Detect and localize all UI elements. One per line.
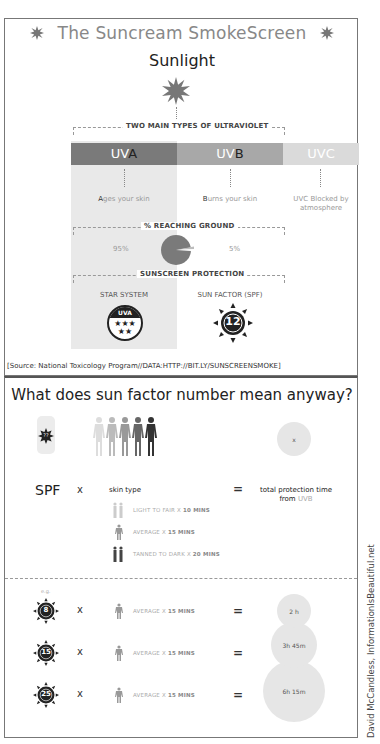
connector-line: [320, 169, 321, 187]
uv-types-label: TWO MAIN TYPES OF ULTRAVIOLET: [123, 122, 271, 130]
average-skin-person-icon: [115, 644, 123, 662]
light-skin-people-icon: [111, 502, 125, 518]
connector-line: [230, 169, 231, 187]
pie-chart: [161, 233, 195, 267]
connector-line: [124, 169, 125, 187]
star-system-label: STAR SYSTEM: [71, 291, 177, 299]
average-skin-person-icon: [115, 524, 123, 540]
uvc-description: UVC Blocked by atmosphere: [289, 195, 353, 213]
equals-sign: =: [233, 482, 243, 496]
result-bubble-large: 6h 15m: [263, 660, 325, 722]
connector-line: [176, 107, 177, 119]
reaching-ground-label: % REACHING GROUND: [141, 222, 238, 230]
sun-icon: [162, 77, 190, 105]
section-title-sunlight: Sunlight: [5, 51, 359, 70]
average-skin-person-icon: [115, 602, 123, 620]
dark-skin-people-icon: [111, 546, 125, 562]
skin-types-people-icon: [91, 416, 161, 458]
result-bubble-small: 2 h: [277, 594, 311, 628]
result-bubble-medium: 3h 45m: [271, 622, 317, 668]
spf-value: 12: [213, 315, 253, 328]
uvb-percentage: 5%: [229, 245, 240, 253]
equals-sign: =: [233, 646, 243, 660]
total-protection-label: total protection time from UVB: [255, 486, 337, 504]
uva-badge-label: UVA: [109, 307, 141, 318]
bottle-label: ??: [38, 432, 54, 438]
times-sign: x: [77, 484, 83, 495]
skin-type-dark: TANNED TO DARK X 20 MINS: [133, 551, 220, 557]
spf-value: 25: [33, 690, 59, 698]
sun-icon: [320, 26, 334, 40]
source-citation: [Source: National Toxicology Program//DA…: [7, 362, 281, 370]
skin-type-average: AVERAGE X 15 MINS: [133, 529, 195, 535]
times-sign: x: [77, 688, 83, 699]
times-sign: x: [77, 646, 83, 657]
author-credit: David McCandless, InformationIsBeautiful…: [366, 544, 376, 738]
spf-value: 15: [33, 648, 59, 656]
uvb-description: Burns your skin: [177, 195, 283, 203]
uva-star-badge: UVA ★★★★★: [107, 305, 143, 341]
example-skin-type: AVERAGE X 15 MINS: [133, 650, 195, 656]
explainer-title: What does sun factor number mean anyway?: [5, 386, 359, 404]
protection-label: SUNSCREEN PROTECTION: [137, 270, 247, 278]
eg-label: e.g.: [41, 588, 50, 594]
average-skin-person-icon: [115, 686, 123, 704]
uva-header: UVA: [71, 143, 177, 165]
skin-type-term: skin type: [109, 486, 141, 494]
spf-label: SUN FACTOR (SPF): [177, 291, 283, 299]
sun-icon: [30, 26, 44, 40]
uvc-header: UVC: [283, 143, 359, 165]
infographic-title: The Suncream SmokeScreen: [5, 23, 359, 43]
skin-type-light: LIGHT TO FAIR X 10 MINS: [133, 507, 210, 513]
example-skin-type: AVERAGE X 15 MINS: [133, 692, 195, 698]
equals-sign: =: [233, 688, 243, 702]
spf-explainer-panel: What does sun factor number mean anyway?…: [4, 376, 358, 738]
uva-description: Ages your skin: [71, 195, 177, 203]
example-skin-type: AVERAGE X 15 MINS: [133, 608, 195, 614]
uva-percentage: 95%: [113, 245, 129, 253]
equals-sign: =: [233, 604, 243, 618]
result-bubble: x: [277, 422, 311, 456]
spf-term: SPF: [35, 482, 60, 498]
uvb-header: UVB: [177, 143, 283, 165]
sunlight-panel: The Suncream SmokeScreen Sunlight TWO MA…: [4, 18, 358, 376]
spf-value: 8: [33, 606, 59, 614]
times-sign: x: [77, 604, 83, 615]
section-divider: [5, 578, 357, 579]
star-icon: ★★★★★: [109, 320, 141, 336]
